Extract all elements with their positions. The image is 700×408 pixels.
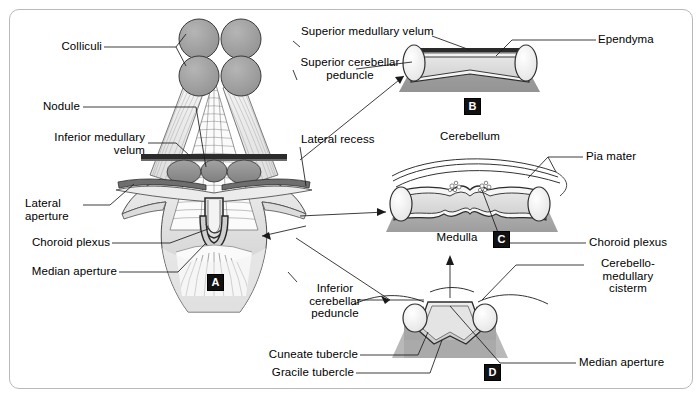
colliculus-superior-left (179, 19, 219, 59)
panel-b-illustration (399, 45, 540, 92)
tubercle-oval-left (403, 304, 427, 332)
label-median-aperture-d: Median aperture (579, 356, 664, 369)
label-gracile-tubercle: Gracile tubercle (240, 366, 354, 379)
panel-a-illustration (116, 19, 312, 312)
colliculus-inferior-right (221, 56, 261, 96)
inferior-cerebellar-peduncle-right-c (528, 187, 550, 221)
pia-mater-sweep (556, 172, 567, 196)
label-ependyma: Ependyma (598, 33, 654, 46)
label-medulla: Medulla (422, 231, 492, 244)
label-inferior-medullary-velum: Inferior medullary velum (10, 131, 145, 156)
colliculus-superior-right (221, 19, 261, 59)
label-superior-medullary-velum: Superior medullary velum (301, 25, 434, 38)
label-cuneate-tubercle: Cuneate tubercle (240, 348, 358, 361)
panel-letter-c: C (493, 231, 510, 248)
label-cerebello-medullary-cistern: Cerebello- medullary cisterm (586, 257, 670, 295)
tubercle-oval-right (473, 304, 497, 332)
inferior-cerebellar-peduncle-left-c (390, 187, 412, 221)
panel-letter-a: A (207, 274, 224, 291)
label-colliculi: Colliculi (10, 40, 102, 53)
label-superior-cerebellar-peduncle: Superior cerebellar peduncle (295, 56, 405, 81)
label-median-aperture-a: Median aperture (10, 265, 117, 278)
label-nodule: Nodule (10, 100, 80, 113)
figure-canvas: Colliculi Nodule Inferior medullary velu… (0, 0, 700, 408)
label-choroid-plexus-c: Choroid plexus (589, 236, 667, 249)
superior-cerebellar-peduncle-right (515, 45, 537, 81)
inferior-medullary-velum-bar (141, 154, 287, 159)
label-lateral-aperture: Lateral aperture (25, 197, 105, 222)
panel-c-illustration (386, 159, 567, 232)
colliculus-inferior-left (179, 56, 219, 96)
label-pia-mater: Pia mater (586, 150, 636, 163)
label-inferior-cerebellar-peduncle: Inferior cerebellar peduncle (298, 282, 372, 320)
panel-d-illustration (352, 288, 548, 359)
label-lateral-recess: Lateral recess (301, 133, 375, 146)
label-cerebellum: Cerebellum (412, 130, 528, 143)
panel-letter-d: D (484, 364, 501, 381)
panel-letter-b: B (464, 98, 481, 115)
nodule-lobe-center (201, 160, 227, 182)
label-choroid-plexus-a: Choroid plexus (10, 236, 110, 249)
